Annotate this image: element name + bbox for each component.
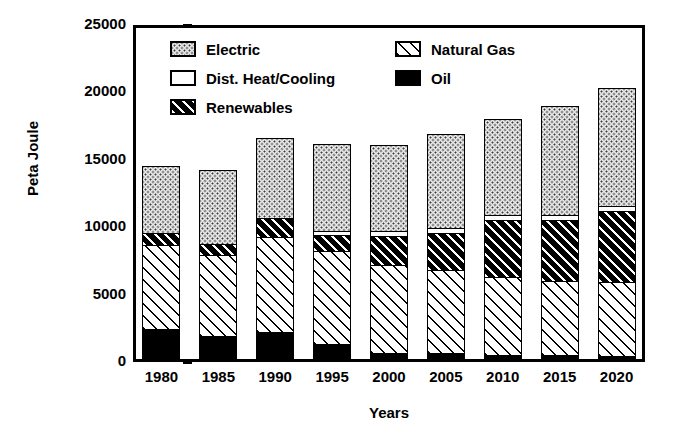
x-tick-label-2020: 2020: [587, 368, 647, 385]
x-tick-label-1990: 1990: [245, 368, 305, 385]
bar-segment-dist-heat-cooling: [313, 231, 351, 235]
y-tick-label: 10000: [64, 218, 126, 233]
x-tick-label-2015: 2015: [530, 368, 590, 385]
bar-segment-electric: [199, 170, 237, 244]
bar-segment-oil: [142, 329, 180, 362]
bar-segment-natural-gas: [199, 255, 237, 336]
bar-segment-renewables: [370, 236, 408, 265]
bar-segment-renewables: [256, 218, 294, 237]
bar-segment-oil: [484, 355, 522, 362]
bar-segment-dist-heat-cooling: [427, 228, 465, 233]
bar-segment-electric: [484, 119, 522, 215]
x-tick-label-2010: 2010: [473, 368, 533, 385]
legend-label: Dist. Heat/Cooling: [206, 70, 335, 87]
x-axis-title: Years: [133, 404, 645, 421]
y-tick-label: 20000: [64, 83, 126, 98]
legend-swatch-electric-icon: [170, 41, 196, 57]
bar-segment-electric: [142, 166, 180, 233]
bar-segment-renewables: [313, 235, 351, 251]
y-axis-tick-labels: 0500010000150002000025000: [58, 0, 126, 447]
bar-segment-dist-heat-cooling: [370, 231, 408, 236]
legend-label: Electric: [206, 41, 260, 58]
bar-segment-electric: [256, 138, 294, 218]
bar-segment-electric: [427, 134, 465, 228]
bar-segment-renewables: [427, 233, 465, 270]
legend-swatch-gas-icon: [395, 41, 421, 57]
legend-swatch-oil-icon: [395, 70, 421, 86]
bar-segment-oil: [541, 355, 579, 362]
bar-segment-natural-gas: [256, 237, 294, 333]
x-tick-label-2005: 2005: [416, 368, 476, 385]
bar-segment-oil: [598, 356, 636, 362]
bar-segment-natural-gas: [142, 245, 180, 329]
bar-segment-oil: [256, 332, 294, 362]
legend-swatch-heat-icon: [170, 70, 196, 86]
bar-segment-electric: [313, 144, 351, 232]
x-tick-label-1980: 1980: [131, 368, 191, 385]
legend-item-electric[interactable]: Electric: [170, 36, 335, 62]
legend-column-left: ElectricDist. Heat/CoolingRenewables: [170, 36, 335, 123]
bar-segment-renewables: [199, 244, 237, 255]
bar-segment-renewables: [142, 233, 180, 244]
legend-label: Renewables: [206, 99, 293, 116]
legend-item-oil[interactable]: Oil: [395, 65, 515, 91]
bar-segment-oil: [199, 336, 237, 362]
y-tick-label: 5000: [64, 286, 126, 301]
legend-item-heat[interactable]: Dist. Heat/Cooling: [170, 65, 335, 91]
bar-2020[interactable]: [598, 25, 636, 362]
y-axis-title: Peta Joule: [24, 79, 41, 239]
bar-segment-renewables: [598, 211, 636, 282]
bar-segment-renewables: [541, 220, 579, 281]
x-tick-label-1985: 1985: [188, 368, 248, 385]
bar-segment-electric: [370, 145, 408, 231]
y-tick-label: 25000: [64, 16, 126, 31]
bar-segment-natural-gas: [370, 265, 408, 353]
legend-swatch-renew-icon: [170, 99, 196, 115]
legend-label: Natural Gas: [431, 41, 515, 58]
bar-segment-dist-heat-cooling: [484, 215, 522, 220]
bar-segment-natural-gas: [541, 281, 579, 355]
bar-segment-oil: [370, 353, 408, 362]
bar-segment-oil: [313, 344, 351, 362]
stacked-bar-chart: Peta Joule 0500010000150002000025000 Ele…: [0, 0, 673, 447]
legend-item-renew[interactable]: Renewables: [170, 94, 335, 120]
y-tick-label: 0: [64, 353, 126, 368]
bar-segment-dist-heat-cooling: [598, 206, 636, 211]
bar-segment-natural-gas: [598, 282, 636, 355]
x-tick-label-1995: 1995: [302, 368, 362, 385]
legend-label: Oil: [431, 70, 451, 87]
bar-segment-electric: [598, 88, 636, 205]
bar-segment-oil: [427, 353, 465, 362]
legend-item-gas[interactable]: Natural Gas: [395, 36, 515, 62]
y-tick-label: 15000: [64, 151, 126, 166]
bar-segment-natural-gas: [313, 251, 351, 344]
legend-column-right: Natural GasOil: [395, 36, 515, 94]
bar-segment-renewables: [484, 220, 522, 277]
x-tick-label-2000: 2000: [359, 368, 419, 385]
bar-segment-dist-heat-cooling: [541, 215, 579, 220]
bar-segment-natural-gas: [484, 277, 522, 355]
bar-2015[interactable]: [541, 25, 579, 362]
bar-segment-electric: [541, 106, 579, 215]
bar-segment-natural-gas: [427, 270, 465, 353]
